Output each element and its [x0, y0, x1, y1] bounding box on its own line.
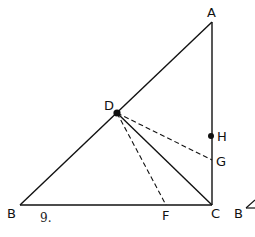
next-figure-angle-stroke [246, 200, 255, 208]
label-c: C [211, 206, 220, 221]
segment-df-dashed [117, 113, 166, 205]
segment-dc [117, 113, 212, 205]
label-next-figure-b: B [234, 206, 243, 221]
figure-number: 9. [40, 211, 51, 225]
label-f: F [162, 208, 169, 223]
point-h-dot [208, 133, 214, 139]
label-g: G [216, 154, 226, 169]
label-d: D [104, 98, 114, 113]
segment-dg-dashed [117, 113, 212, 160]
point-d-dot [113, 109, 120, 116]
geometry-diagram: A B C D F G H 9. B [0, 0, 255, 237]
label-a: A [207, 5, 216, 20]
label-b: B [7, 206, 16, 221]
label-h: H [217, 129, 227, 144]
